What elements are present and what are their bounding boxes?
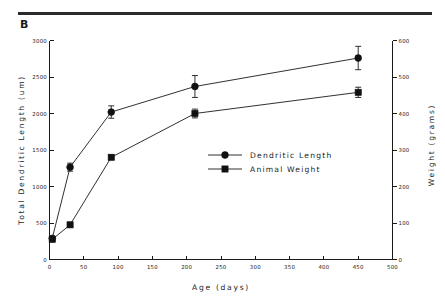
y-tick-label-left: 1500 bbox=[32, 147, 47, 153]
y-axis-title-right: Weight (grams) bbox=[427, 104, 436, 187]
legend-label-0: Dendritic Length bbox=[250, 151, 332, 160]
data-point-square bbox=[355, 89, 361, 95]
y-tick-label-right: 300 bbox=[399, 147, 410, 153]
y-tick-label-right: 600 bbox=[399, 38, 410, 44]
y-tick-label-right: 400 bbox=[399, 111, 410, 117]
data-point-square bbox=[108, 154, 114, 160]
x-tick-label: 200 bbox=[181, 264, 192, 270]
series-line-0 bbox=[52, 58, 358, 238]
chart-legend: Dendritic LengthAnimal Weight bbox=[208, 151, 332, 174]
legend-marker-square bbox=[222, 166, 228, 172]
x-tick-label: 0 bbox=[48, 264, 52, 270]
y-tick-label-right: 200 bbox=[399, 184, 410, 190]
y-tick-label-right: 100 bbox=[399, 220, 410, 226]
x-tick-label: 150 bbox=[147, 264, 158, 270]
x-tick-label: 350 bbox=[284, 264, 295, 270]
x-tick-label: 400 bbox=[318, 264, 329, 270]
y-tick-label-left: 3000 bbox=[32, 38, 47, 44]
data-point-circle bbox=[67, 164, 74, 171]
data-point-circle bbox=[355, 55, 362, 62]
legend-marker-circle bbox=[222, 152, 229, 159]
chart-plot-area: 0501001502002503003504004505000500100015… bbox=[0, 0, 445, 305]
x-axis-title: Age (days) bbox=[192, 283, 250, 292]
x-tick-label: 50 bbox=[80, 264, 88, 270]
y-tick-label-right: 500 bbox=[399, 74, 410, 80]
y-tick-label-left: 500 bbox=[36, 220, 47, 226]
chart-axes: 0501001502002503003504004505000500100015… bbox=[32, 38, 410, 271]
data-point-square bbox=[67, 222, 73, 228]
x-tick-label: 450 bbox=[353, 264, 364, 270]
x-tick-label: 250 bbox=[215, 264, 226, 270]
figure-panel: B 05010015020025030035040045050005001000… bbox=[0, 0, 445, 305]
y-tick-label-left: 2500 bbox=[32, 74, 47, 80]
y-tick-label-left: 2000 bbox=[32, 111, 47, 117]
data-point-square bbox=[192, 110, 198, 116]
x-tick-label: 100 bbox=[113, 264, 124, 270]
legend-label-1: Animal Weight bbox=[250, 165, 321, 174]
chart-data-series bbox=[49, 46, 362, 242]
y-axis-title-left: Total Dendritic Length (um) bbox=[17, 75, 26, 226]
data-point-circle bbox=[192, 83, 199, 90]
y-tick-label-left: 1000 bbox=[32, 184, 47, 190]
data-point-square bbox=[49, 236, 55, 242]
y-tick-label-left: 0 bbox=[43, 257, 47, 263]
data-point-circle bbox=[108, 109, 115, 116]
y-tick-label-right: 0 bbox=[399, 257, 403, 263]
x-tick-label: 500 bbox=[387, 264, 398, 270]
x-tick-label: 300 bbox=[250, 264, 261, 270]
